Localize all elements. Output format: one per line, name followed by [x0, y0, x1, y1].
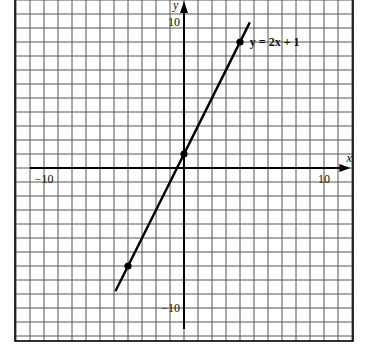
y-tick-neg10: −10: [161, 301, 180, 315]
linear-function-graph: x y −10 10 10 −10 y = 2x + 1: [0, 0, 369, 363]
data-point: [124, 262, 131, 269]
x-tick-neg10: −10: [35, 172, 54, 186]
x-axis-label: x: [345, 151, 352, 165]
x-tick-10: 10: [318, 172, 330, 186]
data-point: [236, 38, 243, 45]
series-line: [115, 22, 249, 291]
x-axis-arrow-icon: [339, 164, 350, 172]
axis-labels: x y −10 10 10 −10 y = 2x + 1: [35, 0, 353, 315]
y-axis-arrow-icon: [180, 1, 188, 13]
y-tick-10: 10: [168, 15, 180, 29]
data-point: [180, 150, 187, 157]
y-axis-label: y: [172, 0, 179, 12]
equation-label: y = 2x + 1: [250, 35, 300, 49]
